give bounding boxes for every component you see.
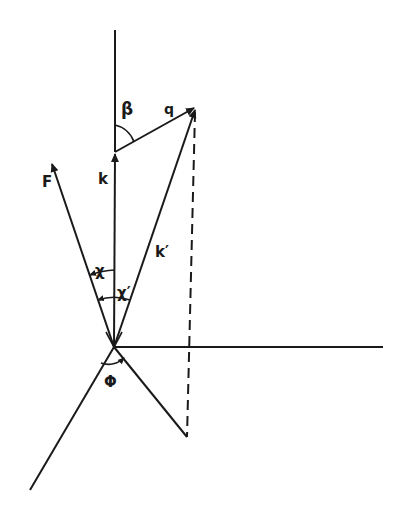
label-phi: Φ	[104, 373, 117, 391]
label-beta: β	[121, 99, 133, 119]
label-chi-prime: χ′	[117, 284, 131, 302]
label-k-prime: k′	[155, 243, 169, 261]
k-vector	[114, 154, 115, 347]
label-F: F	[42, 173, 52, 191]
lower-left-line	[30, 347, 114, 490]
phi-angle-arc	[101, 358, 124, 364]
dashed-projection-line	[187, 112, 195, 437]
projection-line	[114, 347, 187, 437]
beta-angle-arc	[115, 125, 134, 142]
diagram-canvas: β q k F k′ χ χ′ Φ	[0, 0, 408, 513]
label-q: q	[164, 101, 174, 117]
label-chi: χ	[95, 262, 105, 280]
F-vector	[52, 164, 114, 347]
label-k: k	[98, 170, 109, 188]
